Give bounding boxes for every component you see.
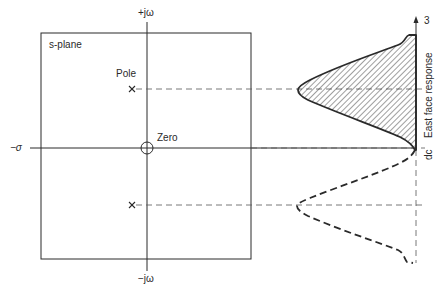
response-top-tick-label: 3 [424,16,430,26]
dc-label: dc [424,149,434,160]
negative-imaginary-label: −jω [138,274,154,284]
response-axis-label: East face response [424,52,434,138]
plane-title: s-plane [49,40,82,50]
pole-marker-lower-icon [129,202,135,208]
lower-response-lobe [297,150,415,263]
negative-real-label: −σ [10,143,22,153]
zero-label: Zero [157,133,178,143]
pole-label: Pole [116,69,136,79]
positive-imaginary-label: +jω [138,8,154,18]
upper-response-lobe [298,35,416,150]
response-axis-arrow-icon [414,16,419,23]
pole-marker-upper-icon [129,86,135,92]
